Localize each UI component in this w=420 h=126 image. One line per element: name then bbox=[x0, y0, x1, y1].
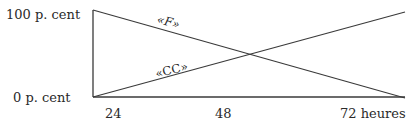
x-tick-72: 72 heures bbox=[340, 107, 406, 120]
y-tick-100: 100 p. cent bbox=[6, 8, 80, 21]
x-tick-48: 48 bbox=[215, 107, 232, 120]
x-tick-24: 24 bbox=[105, 107, 122, 120]
y-tick-0: 0 p. cent bbox=[13, 91, 71, 104]
line-chart: 100 p. cent 0 p. cent 24 48 72 heures «F… bbox=[0, 0, 420, 126]
